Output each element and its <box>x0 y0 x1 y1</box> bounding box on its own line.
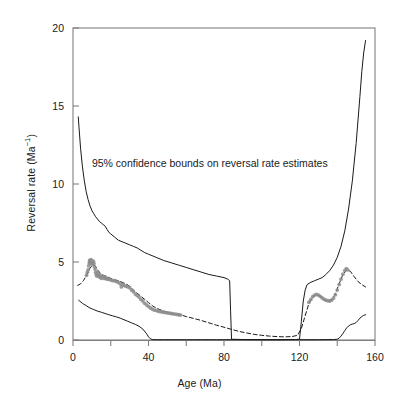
x-axis-ticks <box>73 340 375 346</box>
y-axis-title-main: Reversal rate (Ma <box>25 146 37 231</box>
scatter-point <box>337 283 341 287</box>
y-axis-title-exponent: −1 <box>23 138 32 147</box>
y-tick-label: 15 <box>52 100 64 112</box>
x-axis-title: Age (Ma) <box>0 377 399 389</box>
series-solid <box>78 40 365 339</box>
plot-frame <box>73 28 375 340</box>
x-tick-label: 120 <box>291 351 309 363</box>
scatter-point <box>333 293 337 297</box>
scatter-point <box>346 268 350 272</box>
y-axis-title: Reversal rate (Ma−1) <box>23 93 37 273</box>
figure-container: 04080120160 05101520 95% confidence boun… <box>0 0 399 403</box>
x-axis-tick-labels: 04080120160 <box>70 351 384 363</box>
y-tick-label: 20 <box>52 22 64 34</box>
annotation-text: 95% confidence bounds on reversal rate e… <box>92 157 328 169</box>
scatter-point <box>179 313 183 317</box>
x-tick-label: 160 <box>366 351 384 363</box>
y-axis-ticks <box>73 28 79 340</box>
scatter-points-group <box>85 258 350 317</box>
series-solid <box>79 300 366 339</box>
x-tick-label: 40 <box>143 351 155 363</box>
series-dashed <box>78 265 366 337</box>
y-tick-label: 5 <box>58 256 64 268</box>
chart-annotation: 95% confidence bounds on reversal rate e… <box>92 157 328 169</box>
x-tick-label: 0 <box>70 351 76 363</box>
scatter-point <box>86 268 90 272</box>
y-axis-tick-labels: 05101520 <box>52 22 64 346</box>
scatter-point <box>341 272 345 276</box>
y-tick-label: 0 <box>58 334 64 346</box>
scatter-point <box>335 288 339 292</box>
x-tick-label: 80 <box>218 351 230 363</box>
y-axis-title-close: ) <box>25 134 37 138</box>
y-tick-label: 10 <box>52 178 64 190</box>
scatter-point <box>332 296 336 300</box>
scatter-point <box>339 277 343 281</box>
reversal-rate-chart: 04080120160 05101520 95% confidence boun… <box>0 0 399 403</box>
data-series-group <box>78 40 366 339</box>
